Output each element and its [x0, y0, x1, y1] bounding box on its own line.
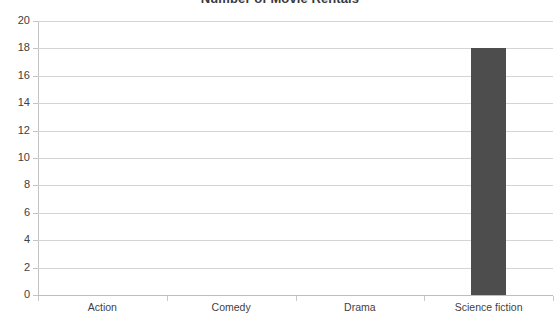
y-axis-tick-label: 12: [2, 125, 30, 136]
y-axis-tick-label: 6: [2, 207, 30, 218]
y-axis-tick-label: 4: [2, 234, 30, 245]
y-axis-tick-label: 10: [2, 152, 30, 163]
y-axis-tick-label: 0: [2, 289, 30, 300]
gridline: [38, 21, 553, 22]
y-axis-tick-label: 16: [2, 70, 30, 81]
y-axis-tick-mark: [33, 268, 38, 269]
y-axis-tick-mark: [33, 103, 38, 104]
x-axis-category-label: Comedy: [167, 301, 296, 314]
y-axis-tick-mark: [33, 185, 38, 186]
y-axis-tick-label: 2: [2, 262, 30, 273]
y-axis-tick-mark: [33, 48, 38, 49]
x-axis-tick-mark: [38, 296, 39, 301]
plot-area: [38, 21, 553, 295]
bar-chart: Number of Movie Rentals 0246810121416182…: [0, 0, 560, 323]
y-axis-tick-mark: [33, 131, 38, 132]
y-axis-tick-labels: 02468101214161820: [0, 0, 30, 323]
x-axis-category-label: Science fiction: [424, 301, 553, 314]
y-axis-tick-mark: [33, 158, 38, 159]
y-axis-tick-label: 20: [2, 15, 30, 26]
y-axis-tick-mark: [33, 21, 38, 22]
x-axis-tick-mark: [553, 296, 554, 301]
y-axis-tick-mark: [33, 76, 38, 77]
bar[interactable]: [471, 48, 506, 295]
chart-title: Number of Movie Rentals: [0, 0, 560, 6]
x-axis-category-label: Action: [38, 301, 167, 314]
y-axis-tick-mark: [33, 213, 38, 214]
y-axis-tick-label: 14: [2, 97, 30, 108]
y-axis-tick-mark: [33, 240, 38, 241]
x-axis-category-label: Drama: [296, 301, 425, 314]
y-axis-tick-label: 18: [2, 42, 30, 53]
y-axis-tick-label: 8: [2, 179, 30, 190]
